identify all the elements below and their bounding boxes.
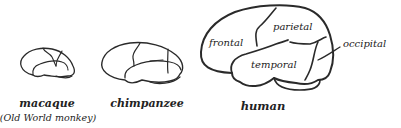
chimpanzee-brain: [102, 43, 183, 84]
region-label-occipital: occipital: [343, 38, 386, 49]
macaque-brain: [21, 48, 75, 78]
region-label-temporal: temporal: [251, 59, 297, 70]
brain-comparison-diagram: frontal parietal temporal occipital maca…: [0, 0, 401, 128]
species-sublabel-macaque: (Old World monkey): [0, 112, 97, 123]
region-label-frontal: frontal: [208, 37, 243, 48]
species-label-chimpanzee: chimpanzee: [110, 97, 184, 110]
region-label-parietal: parietal: [273, 21, 312, 32]
species-label-macaque: macaque: [19, 97, 74, 110]
species-label-human: human: [241, 99, 286, 113]
